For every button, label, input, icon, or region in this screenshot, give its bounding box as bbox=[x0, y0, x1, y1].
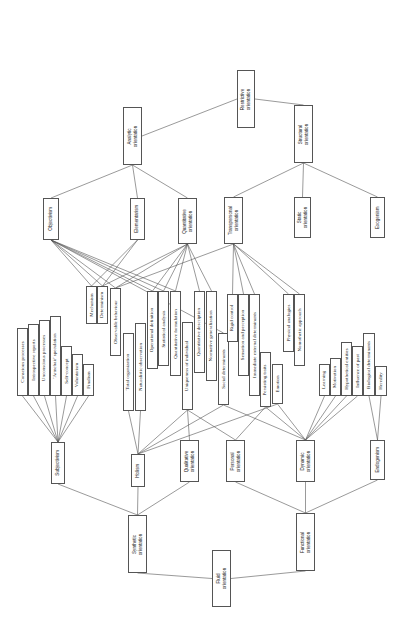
node-label: Exogenism bbox=[375, 206, 381, 229]
connector-synthetic-holism bbox=[138, 487, 139, 515]
node-static: Static orientation bbox=[294, 197, 311, 238]
node-label: Personal orientation bbox=[230, 450, 241, 471]
connector-quantitative-quantform bbox=[176, 244, 188, 291]
connector-quantitative-quantdesc bbox=[188, 244, 200, 291]
node-label: Sensation and perception bbox=[241, 310, 247, 360]
node-label: Immediate external determinants bbox=[252, 312, 258, 378]
node-label: Mechanism bbox=[89, 293, 95, 316]
connector-quantitative-determinism bbox=[103, 244, 188, 286]
node-synthetic: Synthetic orientation bbox=[128, 515, 147, 573]
node-rigidcontrol: Rigid control bbox=[227, 294, 238, 342]
connector-fluid-synthetic bbox=[138, 573, 213, 579]
node-label: Holism bbox=[135, 463, 141, 477]
node-objectivism: Objectivism bbox=[43, 198, 59, 240]
connector-restrictive-analytic bbox=[142, 99, 237, 136]
node-transpersonal: Transpersonal orientation bbox=[224, 197, 243, 244]
connector-holism-naturalistic bbox=[138, 411, 141, 454]
node-uniqueness: Uniqueness of individual bbox=[182, 322, 193, 410]
node-emotion: Emotion bbox=[272, 364, 283, 404]
node-functional: Functional orientation bbox=[296, 513, 315, 571]
node-label: Elementarism bbox=[135, 205, 141, 233]
node-label: Emotion bbox=[275, 375, 281, 392]
node-observable: Observable behaviour bbox=[110, 288, 121, 356]
node-analytic: Analytic orientation bbox=[123, 107, 142, 165]
connector-synthetic-subjectivism bbox=[58, 484, 138, 515]
node-quantform: Quantitative formulation bbox=[170, 291, 181, 376]
connector-quantitative-normgen bbox=[188, 244, 212, 291]
node-label: Static orientation bbox=[297, 207, 308, 228]
node-label: Rigid control bbox=[230, 305, 236, 332]
node-label: Naturalistic observation bbox=[138, 343, 144, 391]
node-hypothetical: Hypothetical entities bbox=[341, 342, 352, 396]
node-label: Analytic orientation bbox=[127, 125, 138, 146]
node-label: Structural orientation bbox=[298, 123, 309, 144]
node-totalorg: Total organization bbox=[123, 333, 134, 411]
connector-dynamic-motivation bbox=[306, 396, 336, 440]
node-structural: Structural orientation bbox=[294, 105, 313, 163]
node-label: Voluntarism bbox=[75, 363, 81, 387]
node-label: Dynamic orientation bbox=[300, 450, 311, 471]
connector-structural-static bbox=[303, 163, 304, 197]
node-elementarism: Elementarism bbox=[130, 198, 145, 240]
node-label: Physical analogies bbox=[286, 304, 292, 341]
node-exogenism: Exogenism bbox=[370, 197, 385, 238]
node-finalism: Finalism bbox=[83, 364, 94, 396]
node-label: Normative generalization bbox=[209, 311, 215, 362]
node-label: Influence of past bbox=[355, 354, 361, 388]
connector-holism-emotion bbox=[138, 404, 278, 454]
node-holism: Holism bbox=[131, 454, 145, 487]
connector-subjectivism-voluntarism bbox=[58, 396, 78, 442]
node-label: Objectivism bbox=[48, 207, 54, 231]
connector-transpersonal-nomothetic bbox=[234, 244, 300, 294]
node-label: Functional orientation bbox=[300, 531, 311, 552]
node-label: Unconscious processes bbox=[42, 335, 48, 381]
connector-holism-totalorg bbox=[129, 411, 139, 454]
connector-transpersonal-immediate bbox=[234, 244, 255, 294]
node-label: Motivation bbox=[333, 366, 339, 388]
node-label: Persisting traits bbox=[263, 364, 269, 395]
node-label: Heredity bbox=[378, 372, 384, 390]
node-subjectivism: Subjectivism bbox=[51, 442, 65, 484]
node-immediate: Immediate external determinants bbox=[249, 294, 260, 396]
connector-subjectivism-conscious bbox=[23, 396, 59, 442]
connector-structural-transpersonal bbox=[234, 163, 304, 197]
node-label: Finalism bbox=[86, 371, 92, 389]
connector-transpersonal-rigidcontrol bbox=[233, 244, 234, 294]
node-personal: Personal orientation bbox=[226, 440, 245, 482]
node-motivation: Motivation bbox=[330, 358, 341, 396]
connector-functional-personal bbox=[236, 482, 306, 513]
node-label: 'Armchair' speculation bbox=[53, 334, 59, 379]
connector-dynamic-learning bbox=[306, 396, 325, 440]
node-label: Learning bbox=[322, 371, 328, 389]
node-label: Hypothetical entities bbox=[344, 348, 350, 390]
connector-subjectivism-introspective bbox=[34, 396, 59, 442]
node-label: Qualitative orientation bbox=[184, 450, 195, 472]
node-sensation: Sensation and perception bbox=[238, 294, 249, 376]
node-socialdet: Social determinants bbox=[218, 333, 229, 405]
node-influencepast: Influence of past bbox=[352, 346, 363, 396]
node-normgen: Normative generalization bbox=[206, 291, 217, 381]
connector-objectivism-quantform bbox=[51, 240, 176, 291]
node-label: Operational definition bbox=[150, 308, 156, 352]
node-naturalistic: Naturalistic observation bbox=[135, 323, 146, 411]
connector-subjectivism-finalism bbox=[58, 396, 89, 442]
node-opdef: Operational definition bbox=[147, 291, 158, 369]
node-mechanism: Mechanism bbox=[86, 286, 97, 324]
node-introspective: Introspective reports bbox=[28, 324, 39, 396]
node-label: Statistical analysis bbox=[161, 310, 167, 347]
node-quantdesc: Quantitative description bbox=[194, 291, 205, 373]
node-selfconcept: Self-concept bbox=[61, 346, 72, 396]
node-nomothetic: Nomothetic approach bbox=[294, 294, 305, 366]
connector-personal-uniqueness bbox=[188, 410, 236, 440]
node-heredity: Heredity bbox=[375, 366, 387, 396]
node-endogenism: Endogenism bbox=[370, 440, 385, 480]
node-voluntarism: Voluntarism bbox=[72, 354, 83, 396]
node-label: Biological determinants bbox=[366, 341, 372, 389]
node-determinism: Determinism bbox=[97, 286, 108, 324]
node-restrictive: Restrictive orientation bbox=[237, 70, 255, 128]
connector-dynamic-socialdet bbox=[224, 405, 306, 440]
node-unconscious: Unconscious processes bbox=[39, 320, 50, 396]
node-label: Endogenism bbox=[375, 447, 381, 473]
node-label: Observable behaviour bbox=[113, 300, 119, 344]
node-label: Self-concept bbox=[64, 358, 70, 383]
